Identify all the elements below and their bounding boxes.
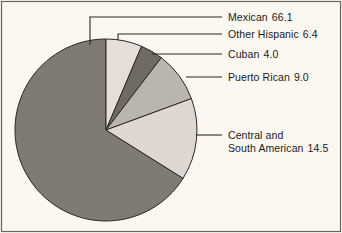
callout-label-puerto-rican: Puerto Rican9.0 [228, 71, 309, 84]
callout-name-other-hispanic: Other Hispanic [228, 28, 299, 40]
callout-value-cuban: 4.0 [263, 48, 278, 60]
callout-value-central-south-american: 14.5 [308, 142, 329, 154]
callout-value-mexican: 66.1 [272, 11, 293, 23]
callout-name-central-south-american-line1: Central and [228, 129, 328, 142]
callout-name-cuban: Cuban [228, 48, 259, 60]
callout-name-central-south-american-line2: South American14.5 [228, 142, 328, 155]
callout-label-mexican: Mexican66.1 [228, 11, 293, 24]
callout-label-central-south-american: Central and South American14.5 [228, 129, 328, 154]
callout-label-other-hispanic: Other Hispanic6.4 [228, 28, 318, 41]
callout-name-puerto-rican: Puerto Rican [228, 71, 290, 83]
callout-value-puerto-rican: 9.0 [294, 71, 309, 83]
callout-value-other-hispanic: 6.4 [303, 28, 318, 40]
pie-chart-figure: Mexican66.1 Other Hispanic6.4 Cuban4.0 P… [0, 0, 342, 233]
callout-name-central-south-american-line2-text: South American [228, 142, 304, 154]
callout-label-cuban: Cuban4.0 [228, 48, 278, 61]
callout-name-mexican: Mexican [228, 11, 268, 23]
